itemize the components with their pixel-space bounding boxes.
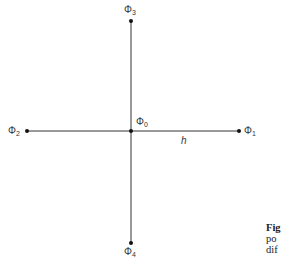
- label-phi2: Φ2: [8, 126, 20, 137]
- subscript: 3: [132, 9, 136, 16]
- label-phi4: Φ4: [124, 247, 136, 258]
- subscript: 2: [16, 130, 20, 137]
- caption-line-2: po: [266, 233, 281, 244]
- stencil-diagram: [0, 0, 281, 261]
- caption-line-1: Fig: [266, 222, 281, 233]
- phi-symbol: Φ: [136, 116, 144, 127]
- subscript: 1: [252, 130, 256, 137]
- left-node: [25, 129, 29, 133]
- phi-symbol: Φ: [124, 246, 132, 257]
- phi-symbol: Φ: [8, 125, 16, 136]
- caption-line-3: dif: [266, 244, 281, 255]
- phi-symbol: Φ: [244, 125, 252, 136]
- right-node: [237, 129, 241, 133]
- spacing-label-h: h: [181, 135, 187, 146]
- center-node: [129, 129, 133, 133]
- top-node: [129, 19, 133, 23]
- subscript: 4: [132, 251, 136, 258]
- figure-caption: Fig po dif: [266, 222, 281, 255]
- label-phi0: Φ0: [136, 117, 148, 128]
- phi-symbol: Φ: [124, 4, 132, 15]
- label-phi1: Φ1: [244, 126, 256, 137]
- label-phi3: Φ3: [124, 5, 136, 16]
- subscript: 0: [144, 121, 148, 128]
- bottom-node: [129, 241, 133, 245]
